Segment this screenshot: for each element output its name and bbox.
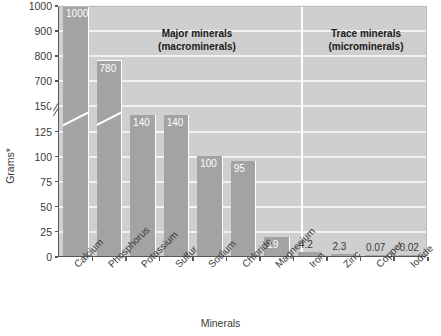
plot-area: 100078014014010095194.22.30.070.02 Major… <box>58 6 427 257</box>
bar-value-label: 100 <box>200 158 217 169</box>
bar-phosphorus: 780 <box>97 60 122 256</box>
y-axis-tick-label: 700 <box>0 76 52 86</box>
y-axis-tick-label: 25 <box>0 227 52 237</box>
mineral-bar-chart: Grams* 02550751001251507008009001000 100… <box>0 0 441 336</box>
x-axis-title: Minerals <box>0 317 441 329</box>
bar-value-label: 780 <box>100 63 117 74</box>
bar-sodium: 100 <box>197 156 222 256</box>
y-axis-tick-label: 0 <box>0 252 52 262</box>
bar-value-label: 0.07 <box>366 242 385 253</box>
y-axis-tick-label: 800 <box>0 51 52 61</box>
y-axis-tick-label: 50 <box>0 202 52 212</box>
y-axis-title: Grams* <box>4 131 16 201</box>
section-title-trace-line1: Trace minerals <box>307 28 425 41</box>
y-axis-tick-label: 100 <box>0 152 52 162</box>
bar-break-slash <box>97 106 121 132</box>
section-divider <box>301 6 303 256</box>
plot-frame-top <box>58 6 427 7</box>
bar-value-label: 95 <box>234 163 245 174</box>
section-title-major-line2: (macrominerals) <box>107 41 287 54</box>
bar-break-slash <box>63 106 87 132</box>
bar-value-label: 2.3 <box>332 241 346 252</box>
x-axis-tick-mark <box>293 257 295 261</box>
y-axis-tick-label: 150 <box>0 101 52 111</box>
section-title-trace-line2: (microminerals) <box>307 41 425 54</box>
y-axis-tick-label: 900 <box>0 26 52 36</box>
y-axis-tick-label: 1000 <box>0 1 52 11</box>
y-axis-tick-label: 75 <box>0 177 52 187</box>
bar-value-label: 140 <box>133 117 150 128</box>
bar-value-label: 140 <box>167 117 184 128</box>
plot-frame-right <box>426 6 427 257</box>
section-title-major: Major minerals (macrominerals) <box>107 28 287 53</box>
section-title-trace: Trace minerals (microminerals) <box>307 28 425 53</box>
gridline <box>59 55 427 57</box>
bar-value-label: 1000 <box>66 8 88 19</box>
section-title-major-line1: Major minerals <box>107 28 287 41</box>
y-axis-tick-label: 125 <box>0 127 52 137</box>
bar-calcium: 1000 <box>63 5 88 256</box>
